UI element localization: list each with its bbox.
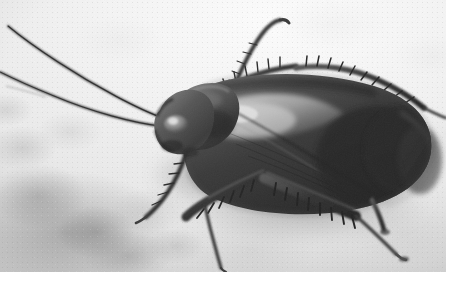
photograph — [0, 0, 446, 272]
photo-margin-bottom — [0, 272, 475, 288]
cockroach-subject — [0, 0, 446, 272]
photo-margin-right — [446, 0, 475, 288]
screenshot-canvas: Black-and-white close-up photograph of a… — [0, 0, 475, 288]
photo-grain-overlay — [0, 0, 446, 272]
